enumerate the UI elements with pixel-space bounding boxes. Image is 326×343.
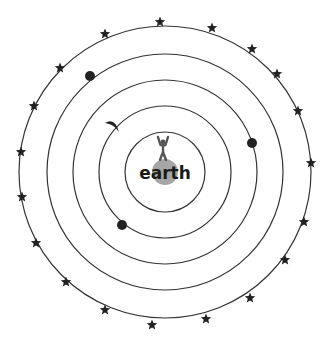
crescent-moon-icon	[105, 121, 119, 132]
planet-icon	[117, 220, 127, 230]
earth-label: earth	[139, 163, 191, 183]
star-icon	[201, 314, 211, 324]
geocentric-diagram: earth	[0, 0, 326, 343]
star-icon	[272, 69, 282, 79]
star-icon	[280, 255, 290, 265]
star-icon	[299, 217, 309, 227]
star-icon	[155, 17, 165, 27]
star-icon	[16, 147, 26, 157]
earth: earth	[139, 137, 191, 185]
planet-icon	[247, 138, 257, 148]
star-icon	[293, 106, 303, 116]
person-icon	[158, 137, 168, 160]
star-icon	[245, 293, 255, 303]
star-icon	[100, 305, 110, 315]
planet-icon	[85, 71, 95, 81]
star-icon	[29, 101, 39, 111]
star-icon	[61, 277, 71, 287]
star-icon	[147, 320, 157, 330]
celestial-bodies	[85, 71, 257, 230]
star-icon	[207, 23, 217, 33]
